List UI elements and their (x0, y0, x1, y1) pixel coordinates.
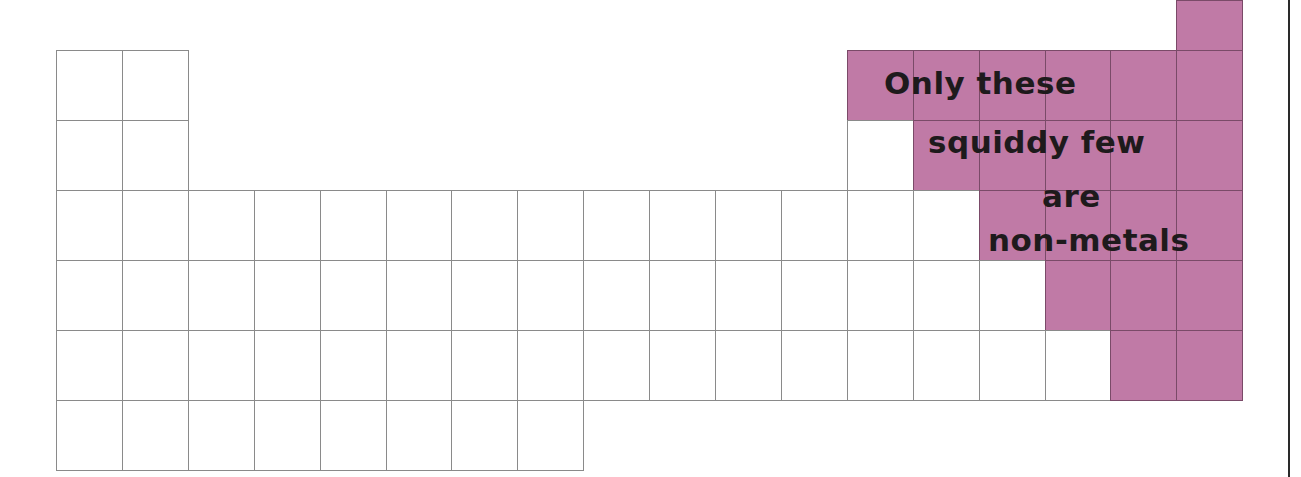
element-cell-r4-c3 (188, 190, 255, 261)
element-cell-r4-c16 (1045, 190, 1111, 261)
periodic-table-grid (0, 0, 1301, 477)
element-cell-r6-c3 (188, 330, 255, 401)
element-cell-r4-c11 (715, 190, 782, 261)
element-cell-r4-c14 (913, 190, 980, 261)
element-cell-r6-c15 (979, 330, 1046, 401)
element-cell-r6-c8 (517, 330, 584, 401)
element-cell-r5-c15 (979, 260, 1046, 331)
element-cell-r2-c14 (913, 50, 980, 121)
element-cell-r4-c9 (583, 190, 650, 261)
element-cell-r7-c2 (122, 400, 189, 471)
element-cell-r7-c7 (451, 400, 518, 471)
element-cell-r7-c1 (56, 400, 123, 471)
element-cell-r6-c5 (320, 330, 387, 401)
element-cell-r4-c18 (1176, 190, 1243, 261)
element-cell-r4-c1 (56, 190, 123, 261)
element-cell-r6-c1 (56, 330, 123, 401)
element-cell-r5-c8 (517, 260, 584, 331)
element-cell-r6-c18 (1176, 330, 1243, 401)
element-cell-r2-c17 (1110, 50, 1177, 121)
element-cell-r6-c9 (583, 330, 650, 401)
element-cell-r2-c16 (1045, 50, 1111, 121)
element-cell-r2-c2 (122, 50, 189, 121)
element-cell-r3-c13 (847, 120, 914, 191)
element-cell-r5-c11 (715, 260, 782, 331)
element-cell-r6-c16 (1045, 330, 1111, 401)
element-cell-r7-c3 (188, 400, 255, 471)
element-cell-r7-c4 (254, 400, 321, 471)
element-cell-r6-c4 (254, 330, 321, 401)
element-cell-r3-c17 (1110, 120, 1177, 191)
element-cell-r2-c13 (847, 50, 914, 121)
element-cell-r4-c5 (320, 190, 387, 261)
element-cell-r5-c13 (847, 260, 914, 331)
element-cell-r5-c9 (583, 260, 650, 331)
element-cell-r4-c4 (254, 190, 321, 261)
element-cell-r5-c6 (386, 260, 452, 331)
page-edge-divider (1288, 0, 1290, 477)
element-cell-r5-c18 (1176, 260, 1243, 331)
element-cell-r7-c6 (386, 400, 452, 471)
element-cell-r5-c3 (188, 260, 255, 331)
element-cell-r6-c14 (913, 330, 980, 401)
element-cell-r5-c4 (254, 260, 321, 331)
element-cell-r6-c2 (122, 330, 189, 401)
element-cell-r7-c8 (517, 400, 584, 471)
element-cell-r4-c15 (979, 190, 1046, 261)
element-cell-r2-c1 (56, 50, 123, 121)
element-cell-r5-c17 (1110, 260, 1177, 331)
element-cell-r5-c7 (451, 260, 518, 331)
element-cell-r5-c12 (781, 260, 848, 331)
element-cell-r6-c12 (781, 330, 848, 401)
element-cell-r4-c10 (649, 190, 716, 261)
element-cell-r5-c10 (649, 260, 716, 331)
element-cell-r3-c14 (913, 120, 980, 191)
element-cell-r3-c2 (122, 120, 189, 191)
element-cell-r3-c16 (1045, 120, 1111, 191)
element-cell-r3-c18 (1176, 120, 1243, 191)
element-cell-r4-c2 (122, 190, 189, 261)
element-cell-r4-c12 (781, 190, 848, 261)
element-cell-r6-c11 (715, 330, 782, 401)
element-cell-r6-c7 (451, 330, 518, 401)
element-cell-r6-c13 (847, 330, 914, 401)
element-cell-r5-c16 (1045, 260, 1111, 331)
element-cell-r2-c18 (1176, 50, 1243, 121)
element-cell-r7-c5 (320, 400, 387, 471)
element-cell-r2-c15 (979, 50, 1046, 121)
element-cell-r6-c6 (386, 330, 452, 401)
element-cell-r3-c1 (56, 120, 123, 191)
element-cell-r5-c2 (122, 260, 189, 331)
element-cell-r4-c6 (386, 190, 452, 261)
element-cell-r5-c14 (913, 260, 980, 331)
element-cell-r5-c1 (56, 260, 123, 331)
element-cell-r1-c18 (1176, 0, 1243, 51)
element-cell-r4-c13 (847, 190, 914, 261)
element-cell-r3-c15 (979, 120, 1046, 191)
element-cell-r6-c17 (1110, 330, 1177, 401)
element-cell-r4-c8 (517, 190, 584, 261)
element-cell-r4-c17 (1110, 190, 1177, 261)
element-cell-r6-c10 (649, 330, 716, 401)
element-cell-r4-c7 (451, 190, 518, 261)
element-cell-r5-c5 (320, 260, 387, 331)
